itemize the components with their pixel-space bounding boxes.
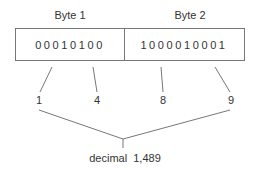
digit-9: 9	[222, 94, 240, 106]
decimal-result: decimal 1,489	[70, 152, 180, 164]
digit-1: 1	[30, 94, 48, 106]
digit-4: 4	[88, 94, 106, 106]
connector-lines	[0, 0, 257, 172]
digit-8: 8	[154, 94, 172, 106]
